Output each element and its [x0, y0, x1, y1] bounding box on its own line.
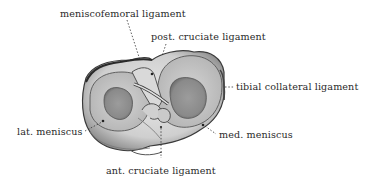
label-post-cruciate-ligament: post. cruciate ligament [151, 32, 266, 42]
label-med-meniscus: med. meniscus [219, 130, 293, 140]
knee-anatomy-figure: meniscofemoral ligament post. cruciate l… [0, 0, 380, 178]
label-tibial-collateral-ligament: tibial collateral ligament [236, 82, 358, 92]
label-meniscofemoral-ligament: meniscofemoral ligament [60, 9, 186, 19]
label-lat-meniscus: lat. meniscus [17, 127, 82, 137]
label-ant-cruciate-ligament: ant. cruciate ligament [106, 166, 216, 176]
